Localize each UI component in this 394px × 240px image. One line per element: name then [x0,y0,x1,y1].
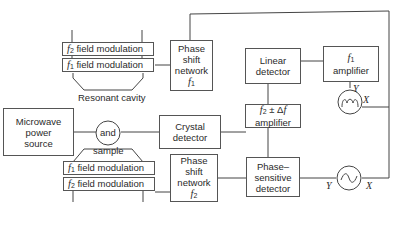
phase-sensitive-detector: Phase– sensitive detector [246,157,300,197]
label: field modulation [74,43,143,54]
plus-minus-delta: ± Δ [267,104,284,115]
label: field modulation [75,178,144,189]
line: source [24,138,53,149]
f1-amplifier: f1 amplifier [323,46,379,82]
phase-shift-network-f2: Phase shift network f2 [170,154,218,202]
f-symbol: f [283,104,286,115]
crystal-detector: Crystal detector [159,115,221,149]
line: amplifier [255,117,291,128]
label: field modulation [74,59,143,70]
microwave-power-source: Microwave power source [3,108,74,156]
linear-detector: Linear detector [245,48,301,84]
line: network [175,65,208,76]
line: shift [183,54,200,65]
bottom-f1-field-modulation: f1 field modulation [63,161,155,175]
line: Linear [260,55,286,66]
line: detector [173,132,207,143]
line: Phase [178,43,205,54]
line: detector [256,183,290,194]
label: field modulation [75,162,144,173]
line: shift [185,166,202,177]
lower-scope-x-label: X [366,180,372,191]
line: Phase– [257,161,289,172]
line: sensitive [255,172,292,183]
subscript: 1 [191,80,195,87]
line: Phase [181,155,208,166]
cavity-and-label: and [100,127,116,138]
line: network [177,177,210,188]
phase-shift-network-f1: Phase shift network f1 [170,40,213,91]
upper-scope-x-label: X [363,94,369,105]
line: amplifier [333,65,369,76]
subscript: 1 [351,56,355,63]
line: Microwave [16,116,61,127]
f2-delta-f-amplifier: f2 ± Δf amplifier [245,104,301,128]
upper-scope-y-label: Y [353,83,359,94]
resonant-cavity-label: Resonant cavity [78,92,146,103]
lower-scope-icon [337,166,361,190]
sample-label: sample [93,145,124,156]
line: Crystal [175,121,205,132]
subscript: 2 [194,192,198,199]
top-f1-field-modulation: f1 field modulation [62,58,154,72]
lower-scope-y-label: Y [326,180,332,191]
top-f2-field-modulation: f2 field modulation [62,42,154,56]
line: detector [256,66,290,77]
bottom-f2-field-modulation: f2 field modulation [63,177,155,191]
line: power [26,127,52,138]
